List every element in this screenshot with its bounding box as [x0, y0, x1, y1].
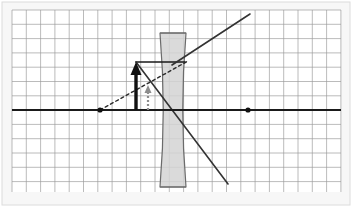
- diagram-canvas: [0, 0, 352, 207]
- ray-diagram-figure: [0, 0, 352, 207]
- left-focal-point-dot: [97, 107, 102, 112]
- right-focal-point-dot: [245, 107, 250, 112]
